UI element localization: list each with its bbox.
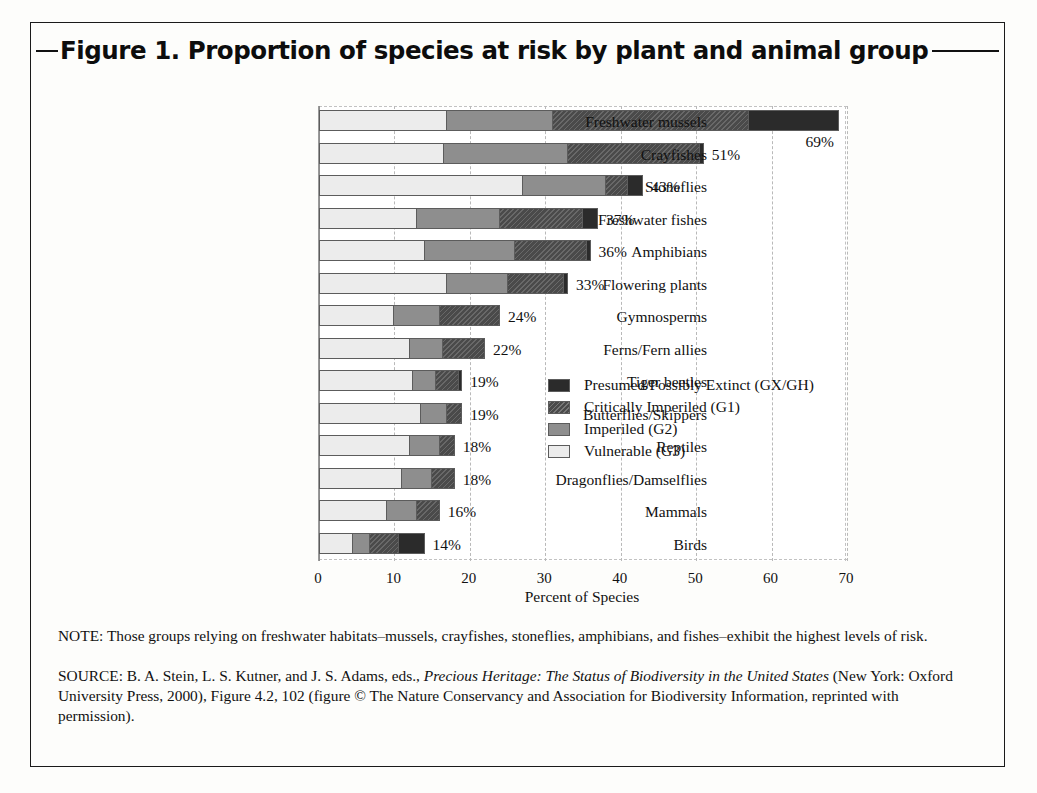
- bar-segment-g2: [387, 500, 417, 521]
- bar-segment-g2: [353, 533, 370, 554]
- stacked-bar: [319, 370, 462, 391]
- bar-segment-g1: [436, 370, 459, 391]
- bar-segment-g3: [319, 435, 410, 456]
- bar-segment-g2: [402, 468, 432, 489]
- bar-segment-g2: [413, 370, 436, 391]
- bar-segment-g3: [319, 273, 447, 294]
- x-axis-title: Percent of Species: [318, 588, 846, 606]
- legend-label: Vulnerable (G3): [584, 442, 685, 460]
- bar-segment-g1: [432, 468, 455, 489]
- legend-swatch-g2: [548, 423, 570, 436]
- legend-swatch-gx: [548, 379, 570, 392]
- legend-swatch-g1: [548, 401, 570, 414]
- bar-value-label: 16%: [448, 503, 476, 521]
- stacked-bar: [319, 305, 500, 326]
- x-tick-20: 20: [461, 570, 476, 587]
- legend-item[interactable]: Imperiled (G2): [548, 418, 814, 440]
- stacked-bar: [319, 533, 425, 554]
- bar-value-label: 33%: [576, 276, 604, 294]
- bar-value-label: 37%: [606, 211, 634, 229]
- bar-segment-g3: [319, 468, 402, 489]
- bar-segment-g3: [319, 370, 413, 391]
- source-prefix: SOURCE: B. A. Stein, L. S. Kutner, and J…: [58, 667, 424, 684]
- stacked-bar: [319, 435, 455, 456]
- stacked-bar: [319, 403, 462, 424]
- bar-segment-g2: [410, 435, 440, 456]
- figure-notes: NOTE: Those groups relying on freshwater…: [58, 626, 978, 726]
- legend-label: Imperiled (G2): [584, 420, 677, 438]
- x-tick-60: 60: [763, 570, 778, 587]
- bar-value-label: 14%: [433, 536, 461, 554]
- stacked-bar: [319, 468, 455, 489]
- stacked-bar: [319, 500, 440, 521]
- stacked-bar: [319, 338, 485, 359]
- legend-label: Critically Imperiled (G1): [584, 398, 740, 416]
- bar-value-label: 69%: [805, 133, 833, 151]
- category-label: Freshwater fishes: [477, 211, 707, 229]
- x-tick-50: 50: [688, 570, 703, 587]
- figure-page: Figure 1. Proportion of species at risk …: [0, 0, 1037, 793]
- bar-value-label: 22%: [493, 341, 521, 359]
- bar-value-label: 51%: [712, 146, 740, 164]
- legend-label: Presumed/Possibly Extinct (GX/GH): [584, 376, 814, 394]
- category-label: Dragonflies/Damselflies: [477, 471, 707, 489]
- category-label: Mammals: [477, 503, 707, 521]
- bar-value-label: 24%: [508, 308, 536, 326]
- legend-swatch-g3: [548, 445, 570, 458]
- category-label: Birds: [477, 536, 707, 554]
- x-tick-70: 70: [839, 570, 854, 587]
- bar-segment-gx: [399, 533, 425, 554]
- category-label: Amphibians: [477, 243, 707, 261]
- bar-value-label: 19%: [470, 406, 498, 424]
- bar-segment-g2: [410, 338, 444, 359]
- bar-segment-g3: [319, 240, 425, 261]
- bar-segment-g1: [417, 500, 440, 521]
- note-text: NOTE: Those groups relying on freshwater…: [58, 626, 978, 646]
- gridline-70: [847, 106, 849, 561]
- bar-segment-gx: [749, 110, 840, 131]
- x-tick-40: 40: [612, 570, 627, 587]
- x-tick-0: 0: [314, 570, 322, 587]
- category-label: Freshwater mussels: [477, 113, 707, 131]
- bar-value-label: 18%: [463, 471, 491, 489]
- legend-item[interactable]: Presumed/Possibly Extinct (GX/GH): [548, 374, 814, 396]
- x-tick-30: 30: [537, 570, 552, 587]
- legend-item[interactable]: Critically Imperiled (G1): [548, 396, 814, 418]
- bar-segment-g3: [319, 403, 421, 424]
- bar-segment-g3: [319, 305, 394, 326]
- bar-segment-g2: [421, 403, 447, 424]
- bar-segment-g1: [447, 403, 462, 424]
- bar-segment-g2: [394, 305, 439, 326]
- chart-legend: Presumed/Possibly Extinct (GX/GH)Critica…: [548, 374, 814, 462]
- bar-segment-g3: [319, 143, 444, 164]
- x-tick-10: 10: [386, 570, 401, 587]
- source-title: Precious Heritage: The Status of Biodive…: [424, 667, 829, 684]
- source-text: SOURCE: B. A. Stein, L. S. Kutner, and J…: [58, 666, 978, 726]
- bar-value-label: 18%: [463, 438, 491, 456]
- bar-value-label: 36%: [599, 243, 627, 261]
- legend-item[interactable]: Vulnerable (G3): [548, 440, 814, 462]
- plot-area: [318, 106, 847, 561]
- bar-segment-g3: [319, 110, 447, 131]
- bar-segment-gx: [459, 370, 463, 391]
- category-label: Crayfishes: [477, 146, 707, 164]
- bar-segment-g3: [319, 208, 417, 229]
- bar-segment-g1: [440, 435, 455, 456]
- bar-value-label: 19%: [470, 373, 498, 391]
- bar-value-label: 43%: [651, 178, 679, 196]
- bar-segment-g3: [319, 500, 387, 521]
- bar-segment-g1: [370, 533, 399, 554]
- bar-segment-g3: [319, 533, 353, 554]
- bar-segment-g3: [319, 338, 410, 359]
